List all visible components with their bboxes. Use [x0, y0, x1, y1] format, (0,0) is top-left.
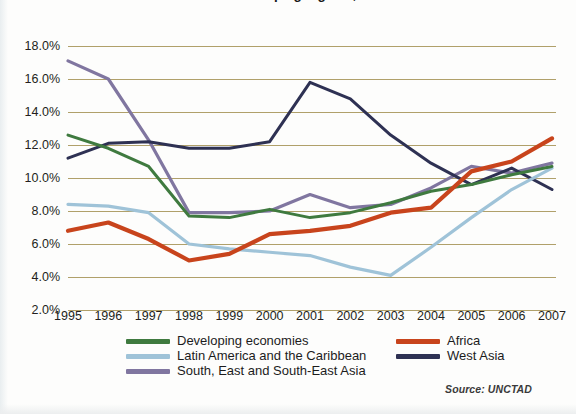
y-axis-tick-label: 18.0%: [4, 39, 60, 53]
legend-item-label: Africa: [447, 334, 480, 348]
series-line: [68, 138, 552, 260]
legend-item-label: West Asia: [447, 349, 505, 363]
x-axis-tick-label: 1996: [94, 309, 122, 323]
x-axis-tick-label: 2003: [377, 309, 405, 323]
legend-color-swatch: [396, 339, 440, 344]
y-axis-tick-label: 8.0%: [4, 204, 60, 218]
x-axis-tick-label: 1995: [54, 309, 82, 323]
legend-item[interactable]: South, East and South-East Asia: [126, 364, 366, 379]
y-axis-tick-label: 14.0%: [4, 105, 60, 119]
x-axis-tick-labels: 1995199619971998199920002001200220032004…: [0, 309, 576, 333]
x-axis-tick-label: 2006: [498, 309, 526, 323]
x-axis-tick-label: 2007: [538, 309, 566, 323]
legend-item-label: South, East and South-East Asia: [177, 364, 366, 378]
y-axis-tick-label: 16.0%: [4, 72, 60, 86]
legend-item[interactable]: Developing economies: [126, 334, 366, 349]
series-line: [68, 168, 552, 275]
plot-area: 2.0%4.0%6.0%8.0%10.0%12.0%14.0%16.0%18.0…: [0, 0, 576, 340]
legend-item[interactable]: West Asia: [396, 349, 505, 364]
x-axis-tick-label: 1999: [215, 309, 243, 323]
legend-column-right: AfricaWest Asia: [396, 334, 505, 364]
figure-container: Rates of Return on Inward FDI in develop…: [0, 0, 576, 414]
y-axis-tick-labels: 2.0%4.0%6.0%8.0%10.0%12.0%14.0%16.0%18.0…: [2, 0, 60, 340]
x-axis-tick-label: 2002: [336, 309, 364, 323]
x-axis-tick-label: 2000: [256, 309, 284, 323]
series-line: [68, 135, 552, 218]
legend-color-swatch: [126, 369, 170, 374]
x-axis-tick-label: 2001: [296, 309, 324, 323]
y-axis-tick-label: 4.0%: [4, 270, 60, 284]
y-axis-tick-label: 10.0%: [4, 171, 60, 185]
source-note: Source: UNCTAD: [445, 383, 532, 395]
legend-column-left: Developing economiesLatin America and th…: [126, 334, 366, 379]
scan-edge-bottom: [0, 404, 576, 414]
legend-color-swatch: [396, 354, 440, 359]
x-axis-tick-label: 2005: [457, 309, 485, 323]
x-axis-tick-label: 2004: [417, 309, 445, 323]
x-axis-tick-label: 1997: [135, 309, 163, 323]
legend-item[interactable]: Africa: [396, 334, 505, 349]
legend-color-swatch: [126, 354, 170, 359]
y-axis-tick-label: 12.0%: [4, 138, 60, 152]
y-axis-tick-label: 6.0%: [4, 237, 60, 251]
line-chart: [0, 0, 576, 340]
series-line: [68, 82, 552, 189]
legend-item-label: Latin America and the Caribbean: [177, 349, 366, 363]
legend-item[interactable]: Latin America and the Caribbean: [126, 349, 366, 364]
legend-color-swatch: [126, 339, 170, 344]
legend-item-label: Developing economies: [177, 334, 309, 348]
chart-legend: Developing economiesLatin America and th…: [0, 334, 576, 380]
x-axis-tick-label: 1998: [175, 309, 203, 323]
